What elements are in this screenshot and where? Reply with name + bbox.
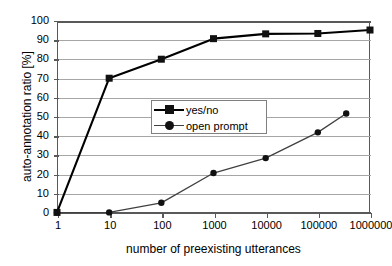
chart-legend: yes/no open prompt	[151, 100, 267, 134]
gridline	[58, 40, 371, 41]
y-tick-mark	[54, 98, 59, 99]
y-tick-mark	[54, 21, 59, 22]
y-tick-mark	[54, 155, 59, 156]
circle-marker-icon	[152, 119, 186, 133]
gridline	[58, 194, 371, 195]
legend-item-open-prompt: open prompt	[152, 118, 266, 133]
x-tick-label: 1000000	[350, 219, 392, 231]
x-tick-mark	[110, 213, 111, 218]
legend-label-open-prompt: open prompt	[186, 120, 248, 132]
x-tick-label: 100	[153, 219, 171, 231]
gridline	[58, 155, 371, 156]
y-tick-mark	[54, 79, 59, 80]
y-tick-label: 100	[19, 15, 49, 26]
y-tick-mark	[54, 136, 59, 137]
x-tick-mark	[319, 213, 320, 218]
y-tick-mark	[54, 40, 59, 41]
y-tick-mark	[54, 175, 59, 176]
gridline	[58, 136, 371, 137]
y-axis-title: auto-annotation ratio [%]	[21, 27, 34, 207]
x-tick-label: 100000	[300, 219, 337, 231]
x-tick-mark	[162, 213, 163, 218]
gridline	[58, 21, 371, 23]
gridline	[58, 79, 371, 80]
x-tick-mark	[215, 213, 216, 218]
legend-label-yes-no: yes/no	[186, 104, 218, 116]
x-tick-mark	[267, 213, 268, 218]
gridline	[58, 98, 371, 99]
x-tick-label: 1	[55, 219, 61, 231]
square-marker-icon	[152, 103, 186, 117]
x-axis-title: number of preexisting utterances	[57, 243, 370, 256]
y-tick-mark	[54, 117, 59, 118]
x-tick-label: 10000	[251, 219, 282, 231]
x-tick-mark	[371, 213, 372, 218]
x-tick-label: 10	[104, 219, 116, 231]
x-tick-mark	[58, 213, 59, 218]
gridline	[58, 175, 371, 176]
y-tick-mark	[54, 59, 59, 60]
legend-item-yes-no: yes/no	[152, 102, 266, 117]
gridline	[58, 59, 371, 60]
y-tick-mark	[54, 194, 59, 195]
y-tick-label: 0	[19, 207, 49, 218]
x-tick-label: 1000	[202, 219, 226, 231]
